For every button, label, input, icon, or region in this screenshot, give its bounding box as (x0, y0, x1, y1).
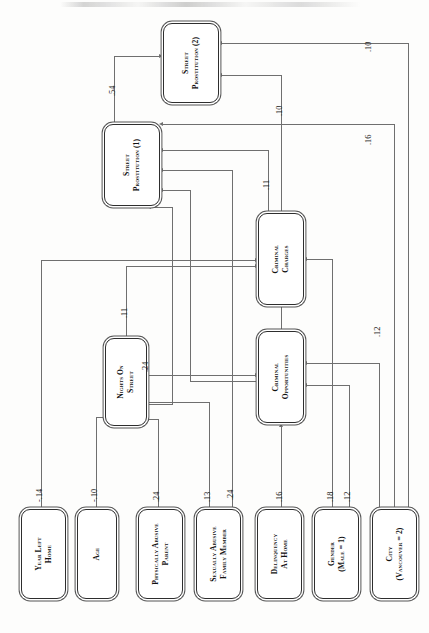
edge-label-city-sp2: .10 (364, 42, 373, 52)
edge-co-sp1-seg-v (190, 190, 191, 381)
node-gender-label: Gender(Male = 1) (327, 536, 346, 571)
node-criminal-charges-label: CriminalCharges (271, 244, 290, 273)
node-age[interactable]: Age (77, 509, 117, 599)
node-nights-on-street[interactable]: Nights onStreet (105, 338, 147, 426)
node-city[interactable]: City(Vancouver = 2) (372, 509, 417, 599)
edge-cc-sp2-seg-h (221, 75, 282, 76)
edge-gender-co-seg-h (305, 385, 350, 386)
edge-city-sp1-seg-v (394, 124, 395, 509)
node-street-prostitution-1-label: StreetProstitution (1) (122, 139, 141, 191)
edge-city-sp1-seg-h (162, 124, 395, 125)
edge-city-sp2-seg-h (221, 43, 409, 44)
edge-label-sp1-sp2: .54 (108, 86, 117, 96)
edge-cc-sp1-seg-h (162, 150, 269, 151)
node-delinquency-at-home[interactable]: Delinquencyat Home (257, 509, 302, 599)
edge-label-nos-co: .24 (141, 362, 150, 372)
edge-label-ylh: -.14 (35, 489, 44, 502)
scan-artifact (60, 2, 360, 7)
edge-city-co-seg-v (379, 363, 380, 509)
node-street-prostitution-1[interactable]: StreetProstitution (1) (104, 124, 160, 206)
edge-sp1-sp2-seg-h (114, 56, 162, 57)
edge-label-city-sp1: .16 (364, 135, 373, 145)
node-street-prostitution-2[interactable]: StreetProstitution (2) (163, 23, 219, 103)
edge-nos-cc-seg-v (126, 266, 127, 338)
node-criminal-charges[interactable]: CriminalCharges (258, 213, 304, 305)
node-year-left-home-label: Year LeftHome (34, 537, 53, 571)
edge-label-cc-sp1: .11 (262, 180, 271, 190)
node-city-label: City(Vancouver = 2) (385, 528, 404, 581)
node-street-prostitution-2-label: StreetProstitution (2) (181, 37, 200, 89)
node-gender[interactable]: Gender(Male = 1) (314, 509, 359, 599)
edge-nos-co-seg-h (147, 375, 258, 376)
edge-label-nos-cc: .11 (120, 308, 129, 318)
path-diagram-figure: StreetProstitution (2) StreetProstitutio… (0, 0, 429, 633)
edge-label-safm-1: .13 (203, 492, 212, 502)
node-year-left-home[interactable]: Year LeftHome (21, 509, 66, 599)
node-physically-abusive-parent[interactable]: Physically AbusiveParent (138, 509, 183, 599)
edge-label-gender-2: .12 (343, 492, 352, 502)
edge-safm-sp1-seg-h (162, 170, 233, 171)
node-nights-on-street-label: Nights onStreet (116, 365, 135, 399)
edge-co-sp1-seg-h1 (162, 190, 191, 191)
edge-city-sp1-arrowhead (159, 122, 163, 126)
edge-city-sp2-seg-v1 (408, 43, 409, 509)
edge-label-dah: .16 (275, 492, 284, 502)
node-physically-abusive-parent-label: Physically AbusiveParent (151, 523, 170, 584)
edge-ylh-cc-seg-v (41, 260, 42, 509)
node-sexually-abusive-family-member-label: Sexually AbusiveFamily Member (209, 526, 228, 581)
edge-safm-nos-seg-h (147, 402, 210, 403)
edge-gender-cc-seg-h (305, 259, 333, 260)
edge-nos-sp1-seg-h2 (148, 404, 173, 405)
edge-co-cc-seg-v (281, 305, 282, 331)
edge-label-pap: .24 (152, 492, 161, 502)
node-age-label: Age (92, 547, 102, 560)
edge-gender-co-seg-v (349, 385, 350, 509)
edge-label-gender-1: .18 (326, 492, 335, 502)
edge-label-safm-2: .24 (226, 490, 235, 500)
edge-label-age: -.10 (90, 489, 99, 502)
edge-label-city-co: .12 (373, 327, 382, 337)
edge-safm-sp1-seg-v (232, 170, 233, 509)
edge-label-cc-sp2: .10 (275, 106, 284, 116)
edge-ylh-cc-seg-h (41, 260, 258, 261)
edge-nos-sp1-seg-h1 (150, 207, 173, 208)
node-sexually-abusive-family-member[interactable]: Sexually AbusiveFamily Member (196, 509, 241, 599)
edge-nos-cc-seg-h (126, 266, 258, 267)
edge-cc-sp2-seg-v (281, 75, 282, 213)
node-delinquency-at-home-label: Delinquencyat Home (270, 534, 289, 574)
edge-dah-co-arrowhead (279, 423, 283, 427)
edge-city-co-seg-h (305, 363, 380, 364)
node-criminal-opportunities[interactable]: CriminalOpportunities (258, 331, 304, 423)
node-criminal-opportunities-label: CriminalOpportunities (271, 355, 290, 400)
edge-co-sp1-seg-h2 (190, 381, 258, 382)
edge-gender-cc-seg-v (332, 259, 333, 509)
